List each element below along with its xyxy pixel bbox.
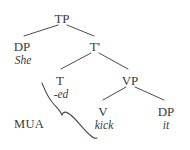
tree-edge-vp-v xyxy=(103,87,126,100)
terminal-label-it: it xyxy=(163,120,169,132)
node-label-tbar: T' xyxy=(90,40,100,53)
node-label-dp1: DP xyxy=(14,40,31,53)
node-label-t: T xyxy=(56,74,64,87)
terminal-label-ed: -ed xyxy=(54,89,69,101)
tree-edge-tbar-vp xyxy=(99,53,128,69)
node-label-vp: VP xyxy=(122,74,139,87)
tree-edge-tp-tbar xyxy=(67,25,94,36)
tree-edge-tp-dp1 xyxy=(24,25,58,36)
node-label-dp2: DP xyxy=(158,105,175,118)
node-label-v: V xyxy=(98,105,107,118)
tree-edge-tbar-t xyxy=(61,53,91,69)
syntax-tree-figure: TPDPT'TVPVDP She-edkickit MUA xyxy=(0,0,190,150)
mua-brace xyxy=(42,83,97,138)
annotation-label-mua: MUA xyxy=(14,118,44,131)
terminal-label-she: She xyxy=(15,55,32,67)
mua-brace xyxy=(42,83,97,138)
tree-edge-vp-dp2 xyxy=(135,87,164,100)
terminal-label-kick: kick xyxy=(95,120,114,132)
node-label-tp: TP xyxy=(54,12,69,25)
